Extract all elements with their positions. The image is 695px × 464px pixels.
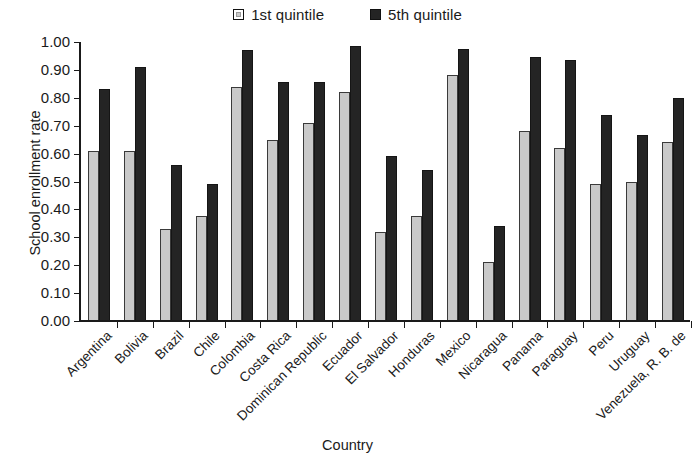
bar-group bbox=[583, 42, 619, 321]
bar-group bbox=[225, 42, 261, 321]
bar-group bbox=[260, 42, 296, 321]
bar-q1 bbox=[662, 142, 673, 321]
y-tick-mark bbox=[74, 154, 81, 155]
y-tick-mark bbox=[74, 126, 81, 127]
bar-q5 bbox=[637, 135, 648, 321]
y-tick-label: 0.80 bbox=[41, 89, 70, 106]
legend-swatch-1st-quintile bbox=[233, 9, 244, 20]
bar-group bbox=[404, 42, 440, 321]
bar-group bbox=[547, 42, 583, 321]
bar-group bbox=[153, 42, 189, 321]
bar-q1 bbox=[626, 182, 637, 322]
bar-q1 bbox=[124, 151, 135, 321]
y-tick-mark bbox=[74, 70, 81, 71]
y-tick-mark bbox=[74, 182, 81, 183]
bar-q5 bbox=[242, 50, 253, 321]
y-tick-label: 0.00 bbox=[41, 312, 70, 329]
bar-group bbox=[440, 42, 476, 321]
bar-group bbox=[296, 42, 332, 321]
x-tick-label: Chile bbox=[190, 328, 222, 360]
y-tick-label: 1.00 bbox=[41, 33, 70, 50]
bar-q1 bbox=[339, 92, 350, 321]
bar-q1 bbox=[447, 75, 458, 321]
bar-q5 bbox=[314, 82, 325, 321]
x-tick-label: Argentina bbox=[63, 328, 114, 379]
x-tick-label: Peru bbox=[586, 328, 617, 359]
bar-q1 bbox=[231, 87, 242, 321]
bar-q5 bbox=[135, 67, 146, 321]
bar-q1 bbox=[554, 148, 565, 321]
y-tick-label: 0.60 bbox=[41, 145, 70, 162]
bar-group bbox=[189, 42, 225, 321]
y-tick-label: 0.90 bbox=[41, 61, 70, 78]
legend-label-1st-quintile: 1st quintile bbox=[251, 6, 324, 23]
bar-chart-figure: 1st quintile 5th quintile School enrollm… bbox=[0, 0, 695, 464]
x-tick-label: Brazil bbox=[152, 328, 186, 362]
y-tick-mark bbox=[74, 237, 81, 238]
y-tick-label: 0.40 bbox=[41, 201, 70, 218]
x-axis-tick-labels: ArgentinaBoliviaBrazilChileColombiaCosta… bbox=[0, 328, 695, 428]
bar-q5 bbox=[207, 184, 218, 321]
y-tick-label: 0.30 bbox=[41, 228, 70, 245]
legend-label-5th-quintile: 5th quintile bbox=[388, 6, 462, 23]
bar-q1 bbox=[88, 151, 99, 321]
legend-item-1st-quintile: 1st quintile bbox=[233, 6, 324, 23]
y-tick-label: 0.10 bbox=[41, 284, 70, 301]
legend-item-5th-quintile: 5th quintile bbox=[370, 6, 462, 23]
y-tick-mark bbox=[74, 265, 81, 266]
bar-q5 bbox=[171, 165, 182, 321]
bar-q5 bbox=[99, 89, 110, 321]
bar-group bbox=[332, 42, 368, 321]
bar-group bbox=[476, 42, 512, 321]
bar-group bbox=[117, 42, 153, 321]
bar-q1 bbox=[267, 140, 278, 321]
y-tick-mark bbox=[74, 293, 81, 294]
bar-q1 bbox=[303, 123, 314, 321]
chart-legend: 1st quintile 5th quintile bbox=[0, 6, 695, 23]
bar-q5 bbox=[565, 60, 576, 321]
bar-group bbox=[81, 42, 117, 321]
bar-q1 bbox=[519, 131, 530, 321]
bar-q5 bbox=[530, 57, 541, 321]
bar-q5 bbox=[278, 82, 289, 321]
legend-swatch-5th-quintile bbox=[370, 9, 381, 20]
y-tick-mark bbox=[74, 98, 81, 99]
bar-q5 bbox=[350, 46, 361, 321]
bar-q5 bbox=[673, 98, 684, 321]
y-tick-label: 0.20 bbox=[41, 256, 70, 273]
y-tick-mark bbox=[74, 42, 81, 43]
bar-q5 bbox=[458, 49, 469, 321]
y-tick-label: 0.70 bbox=[41, 117, 70, 134]
bar-group bbox=[619, 42, 655, 321]
x-axis-title: Country bbox=[0, 437, 695, 453]
y-tick-mark bbox=[74, 209, 81, 210]
bar-group bbox=[512, 42, 548, 321]
y-tick-label: 0.50 bbox=[41, 173, 70, 190]
bar-group bbox=[655, 42, 691, 321]
